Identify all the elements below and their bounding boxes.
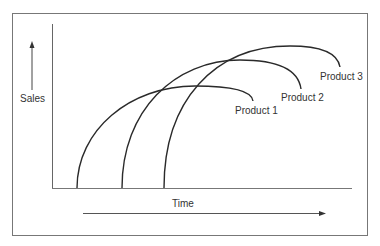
curve-product-2 xyxy=(122,60,301,188)
sales-arrow-icon xyxy=(30,41,35,90)
label-product-2: Product 2 xyxy=(281,92,324,103)
y-axis-label: Sales xyxy=(20,93,45,104)
time-arrow-icon xyxy=(83,211,326,216)
product-lifecycle-diagram: Sales Time Product 1 Product 2 Product 3 xyxy=(0,0,380,246)
curve-product-3 xyxy=(164,46,340,188)
label-product-3: Product 3 xyxy=(320,71,363,82)
x-axis-label: Time xyxy=(172,198,194,209)
label-product-1: Product 1 xyxy=(235,105,278,116)
